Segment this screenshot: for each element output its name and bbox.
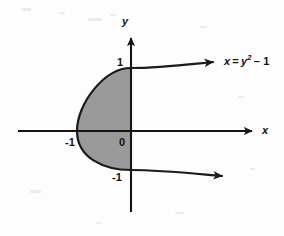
parabola-region-figure: y x 1 -1 -1 0 x=y2– 1 [0, 0, 284, 236]
tick-label-y-positive-one: 1 [117, 57, 123, 68]
equation-exponent-two: 2 [247, 53, 251, 62]
y-axis-label: y [122, 16, 128, 27]
equation-term-x: x [224, 55, 230, 67]
tick-label-x-negative-one: -1 [65, 137, 75, 148]
curve-equation-label: x=y2– 1 [224, 56, 270, 67]
figure-canvas [0, 0, 284, 236]
tick-label-y-negative-one: -1 [112, 172, 122, 183]
origin-label: 0 [119, 137, 125, 148]
equation-equals-sign: = [232, 55, 239, 67]
equation-minus-one: – 1 [254, 55, 270, 67]
x-axis-label: x [262, 125, 268, 136]
